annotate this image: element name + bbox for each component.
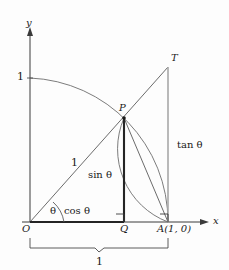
x-axis-label: x (213, 216, 219, 226)
bottom-brace (30, 238, 168, 252)
y-axis (27, 27, 33, 222)
angle-theta-label: θ (50, 206, 56, 216)
trig-unit-circle-figure: y x O 1 P Q T A(1, 0) 1 sin θ cos θ tan … (0, 0, 229, 270)
ray-ot (30, 67, 168, 222)
brace-length-label: 1 (96, 256, 103, 267)
point-label-p: P (119, 103, 126, 113)
point-label-a: A(1, 0) (157, 224, 191, 234)
sin-theta-label: sin θ (88, 170, 112, 180)
unit-circle-arc (30, 78, 168, 222)
arc-p-to-a (118, 118, 168, 222)
y-unit-label: 1 (17, 71, 24, 82)
y-axis-label: y (26, 18, 32, 28)
point-label-t: T (171, 53, 178, 63)
right-angle-marker-q (116, 214, 124, 222)
radius-length-label: 1 (71, 157, 78, 168)
tan-theta-label: tan θ (177, 140, 203, 150)
segment-pa (124, 118, 168, 222)
figure-canvas (0, 0, 229, 270)
point-dot-p (122, 116, 126, 120)
origin-label: O (22, 224, 30, 234)
cos-theta-label: cos θ (64, 206, 90, 216)
point-label-q: Q (120, 224, 128, 234)
